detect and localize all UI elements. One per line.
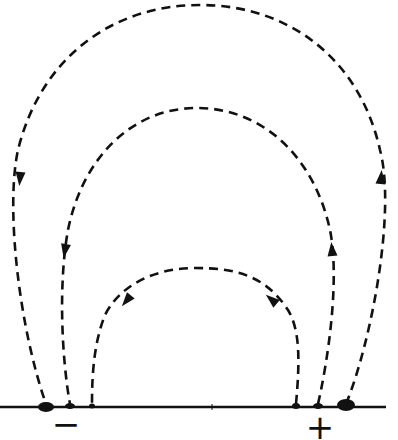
contact-point (337, 399, 355, 411)
field-line-diagram: − + (0, 0, 398, 440)
contact-point (89, 404, 95, 409)
arrow-icon (14, 172, 25, 187)
arrow-icon (263, 291, 280, 308)
field-lines (13, 5, 385, 404)
positive-electrode-label: + (306, 410, 335, 440)
field-line-inner (92, 268, 298, 404)
arrow-icon (326, 242, 337, 257)
contact-point (292, 403, 300, 409)
arrow-icon (118, 292, 135, 309)
field-line-middle (62, 108, 334, 404)
diagram-canvas (0, 0, 398, 440)
negative-electrode-label: − (52, 407, 81, 440)
